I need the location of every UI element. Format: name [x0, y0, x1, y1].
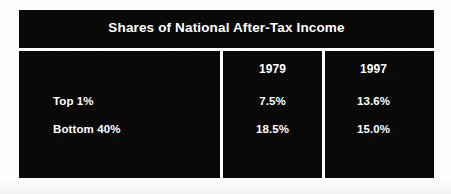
table-cell-1979-top-1: 7.5% [223, 95, 322, 107]
table-title-band: Shares of National After-Tax Income [19, 10, 434, 48]
table-column-1997: 1997 13.6% 15.0% [325, 51, 434, 178]
table-column-labels: Top 1% Bottom 40% [19, 51, 220, 178]
column-header-1997: 1997 [325, 62, 434, 76]
table-cell-1979-bottom-40: 18.5% [223, 123, 322, 135]
table-column-1979: 1979 7.5% 18.5% [223, 51, 322, 178]
table-cell-1997-top-1: 13.6% [325, 95, 434, 107]
table-cell-1997-bottom-40: 15.0% [325, 123, 434, 135]
table-row-label-top-1: Top 1% [53, 95, 94, 107]
page-canvas: Shares of National After-Tax Income Top … [0, 0, 451, 194]
income-shares-table-figure: Shares of National After-Tax Income Top … [19, 10, 434, 178]
page-title: Shares of National After-Tax Income [19, 20, 434, 35]
table-row-label-bottom-40: Bottom 40% [53, 123, 120, 135]
column-header-1979: 1979 [223, 62, 322, 76]
